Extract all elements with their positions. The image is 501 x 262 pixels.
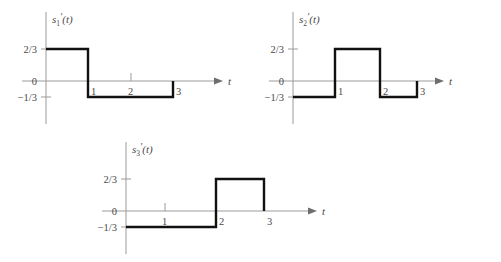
plot-s2-svg: 2/3 0 −1/3 1 2 3 t s2′(t) xyxy=(255,2,495,130)
y-tick-label-neg-one-third: −1/3 xyxy=(98,222,117,233)
signal-label-s1: s1′(t) xyxy=(52,11,73,28)
y-tick-label-zero: 0 xyxy=(112,206,117,217)
y-tick-label-neg-one-third: −1/3 xyxy=(18,92,37,103)
plot-s3: 2/3 0 −1/3 1 2 3 t s3′(t) xyxy=(88,132,363,260)
plot-s3-svg: 2/3 0 −1/3 1 2 3 t s3′(t) xyxy=(88,132,363,260)
signal-label-s2: s2′(t) xyxy=(299,11,320,28)
signal-label-arg: (t) xyxy=(62,13,73,26)
x-axis-arrow-icon xyxy=(435,78,444,85)
x-axis-arrow-icon xyxy=(214,78,223,85)
plot-s1: 2/3 0 −1/3 1 2 3 t s1′(t) xyxy=(8,2,248,130)
waveform-s2 xyxy=(293,49,417,97)
y-tick-label-two-thirds: 2/3 xyxy=(104,174,117,185)
x-tick-label-2: 2 xyxy=(128,86,133,97)
y-tick-label-zero: 0 xyxy=(32,76,37,87)
x-tick-label-1: 1 xyxy=(91,86,96,97)
x-tick-label-2: 2 xyxy=(219,216,224,227)
plot-s1-svg: 2/3 0 −1/3 1 2 3 t s1′(t) xyxy=(8,2,248,130)
y-tick-label-two-thirds: 2/3 xyxy=(24,44,37,55)
x-axis-arrow-icon xyxy=(308,208,317,215)
y-tick-label-zero: 0 xyxy=(279,76,284,87)
plot-s2: 2/3 0 −1/3 1 2 3 t s2′(t) xyxy=(255,2,495,130)
x-tick-label-3: 3 xyxy=(176,86,181,97)
signal-label-s3: s3′(t) xyxy=(132,141,153,158)
x-tick-label-2: 2 xyxy=(383,86,388,97)
signal-label-arg: (t) xyxy=(309,13,320,26)
waveform-s1 xyxy=(46,49,173,97)
signal-label-arg: (t) xyxy=(142,143,153,156)
x-axis-label: t xyxy=(228,75,232,87)
x-axis-label: t xyxy=(322,205,326,217)
y-tick-label-neg-one-third: −1/3 xyxy=(265,92,284,103)
x-tick-label-1: 1 xyxy=(162,216,167,227)
y-tick-label-two-thirds: 2/3 xyxy=(271,44,284,55)
x-tick-label-1: 1 xyxy=(338,86,343,97)
x-axis-label: t xyxy=(449,75,453,87)
x-tick-label-3: 3 xyxy=(267,216,272,227)
waveform-s3 xyxy=(126,179,264,227)
x-tick-label-3: 3 xyxy=(420,86,425,97)
